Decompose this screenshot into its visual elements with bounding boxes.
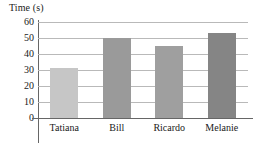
- bar: [208, 33, 236, 118]
- bar-series: [38, 22, 248, 118]
- y-axis-tick-label: 0: [10, 113, 34, 123]
- x-axis-category-label: Tatiana: [50, 121, 79, 134]
- bar-chart: Time (s) 6050403020100 TatianaBillRicard…: [0, 0, 256, 147]
- y-axis-tick-label: 10: [10, 97, 34, 107]
- x-axis-category-label: Ricardo: [153, 121, 185, 134]
- y-axis-tick-label: 20: [10, 81, 34, 91]
- bar: [103, 38, 131, 118]
- y-axis-tick-labels: 6050403020100: [10, 22, 34, 118]
- x-axis-category-label: Bill: [109, 121, 124, 134]
- y-axis-tick-label: 30: [10, 65, 34, 75]
- x-axis-line: [32, 118, 253, 119]
- bar: [155, 46, 183, 118]
- y-axis-tick-label: 40: [10, 49, 34, 59]
- y-axis-tick-label: 50: [10, 33, 34, 43]
- bar: [50, 68, 78, 118]
- y-axis-tick-label: 60: [10, 17, 34, 27]
- x-axis-category-labels: TatianaBillRicardoMelanie: [38, 121, 254, 137]
- y-axis-title: Time (s): [9, 2, 44, 14]
- x-axis-category-label: Melanie: [205, 121, 238, 134]
